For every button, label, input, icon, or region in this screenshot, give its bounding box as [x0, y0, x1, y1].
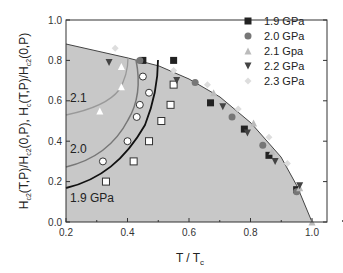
diamond-marker-icon: [265, 134, 272, 141]
y-tick-label: 0.4: [48, 136, 62, 147]
legend-label: 2.0 GPa: [264, 30, 305, 42]
square-marker-icon: [130, 158, 137, 165]
legend-label: 2.3 GPa: [264, 75, 305, 87]
annotation-1.9: 1.9 GPa: [70, 191, 114, 205]
legend-label: 2.2 GPa: [264, 60, 305, 72]
y-tick-label: 0.2: [48, 176, 62, 187]
triangle-down-marker-icon: [245, 63, 252, 70]
y-tick-label: 0.0: [48, 217, 62, 228]
legend: 1.9 GPa2.0 GPa2.1 Gpa2.2 GPa2.3 GPa: [245, 15, 306, 87]
square-marker-icon: [146, 138, 153, 145]
square-marker-icon: [170, 57, 177, 64]
x-tick-label: 0.6: [182, 227, 196, 238]
circle-marker-icon: [136, 101, 143, 108]
y-tick-label: 0.6: [48, 95, 62, 106]
x-tick-label: 1.0: [305, 227, 319, 238]
circle-marker-icon: [124, 138, 131, 145]
circle-marker-icon: [245, 33, 252, 40]
square-marker-icon: [158, 118, 165, 125]
circle-marker-icon: [192, 79, 199, 86]
annotation-2.1: 2.1: [70, 91, 87, 105]
y-axis-label: Hc2(T,P)/Hc2(0,P), Hc(T,P)/Hc2(0,P): [17, 33, 32, 209]
x-axis-label: T / Tc: [176, 251, 204, 267]
circle-marker-icon: [139, 73, 146, 80]
diamond-marker-icon: [204, 81, 211, 88]
square-marker-icon: [167, 101, 174, 108]
triangle-up-marker-icon: [245, 48, 252, 55]
y-tick-label: 1.0: [48, 15, 62, 26]
circle-marker-icon: [259, 142, 266, 149]
x-tick-label: 0.4: [121, 227, 135, 238]
square-marker-icon: [245, 18, 252, 25]
x-tick-label: 0.2: [59, 227, 73, 238]
annotation-2.0: 2.0: [70, 142, 87, 156]
circle-marker-icon: [229, 113, 236, 120]
circle-marker-icon: [133, 113, 140, 120]
diamond-marker-icon: [112, 45, 119, 52]
circle-marker-icon: [146, 89, 153, 96]
circle-marker-icon: [99, 158, 106, 165]
square-marker-icon: [102, 178, 109, 185]
diamond-marker-icon: [245, 78, 252, 85]
legend-label: 1.9 GPa: [264, 15, 305, 27]
square-marker-icon: [207, 99, 214, 106]
chart: 0.20.40.60.81.00.00.20.40.60.81.0 2.1 2.…: [0, 0, 343, 273]
y-tick-label: 0.8: [48, 55, 62, 66]
circle-marker-icon: [136, 57, 143, 64]
x-tick-label: 0.8: [244, 227, 258, 238]
legend-label: 2.1 Gpa: [264, 45, 304, 57]
